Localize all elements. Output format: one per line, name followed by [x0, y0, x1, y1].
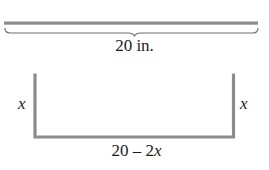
left-side-height-label: x	[18, 95, 26, 112]
right-side-height-label: x	[240, 95, 248, 112]
base-width-variable: x	[154, 141, 162, 160]
base-width-label: 20 – 2x	[0, 142, 269, 159]
length-brace	[5, 28, 258, 36]
base-width-number: 20 – 2	[111, 141, 154, 160]
flat-strip	[4, 22, 258, 25]
folded-channel	[35, 74, 234, 138]
strip-length-label: 20 in.	[0, 37, 269, 54]
diagram-canvas: 20 in. x x 20 – 2x	[0, 0, 269, 170]
